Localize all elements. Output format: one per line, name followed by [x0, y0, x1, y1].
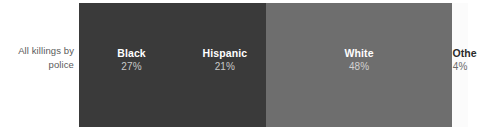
bar-segment-hispanic[interactable]: Hispanic 21% [184, 3, 266, 127]
bar-segment-black-name: Black [79, 46, 184, 60]
row-category-label-line-2: police [0, 58, 74, 72]
bar-segment-white-labels: White 48% [266, 46, 453, 74]
bar-segment-black[interactable]: Black 27% [79, 3, 184, 127]
stacked-bar: Black 27% Hispanic 21% White 48% Other 4… [79, 3, 468, 127]
bar-segment-hispanic-name: Hispanic [184, 46, 266, 60]
row-category-label: All killings by police [0, 44, 74, 72]
bar-segment-white-value: 48% [266, 60, 453, 74]
bar-segment-black-value: 27% [79, 60, 184, 74]
row-category-label-line-1: All killings by [0, 44, 74, 58]
bar-segment-white-name: White [266, 46, 453, 60]
stacked-bar-chart: All killings by police Black 27% Hispani… [0, 0, 477, 134]
bar-segment-white[interactable]: White 48% [266, 3, 453, 127]
bar-segment-other-value: 4% [452, 60, 468, 74]
bar-segment-other[interactable]: Other 4% [452, 3, 468, 127]
bar-segment-hispanic-labels: Hispanic 21% [184, 46, 266, 74]
bar-segment-black-labels: Black 27% [79, 46, 184, 74]
bar-segment-hispanic-value: 21% [184, 60, 266, 74]
bar-segment-other-labels: Other 4% [452, 46, 468, 74]
bar-segment-other-name: Other [452, 46, 468, 60]
